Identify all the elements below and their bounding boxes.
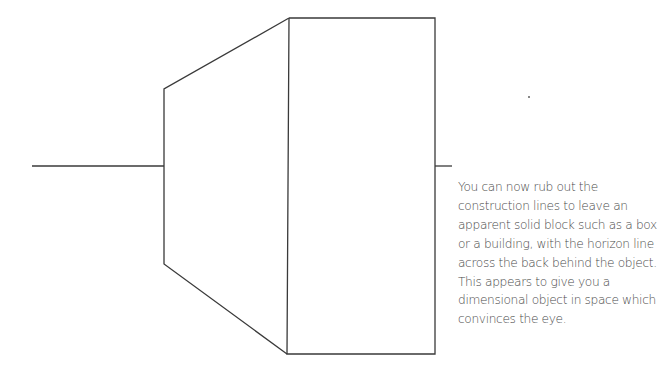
caption-line: across the back behind the object. — [458, 254, 658, 273]
caption-line: convinces the eye. — [458, 310, 658, 329]
front-face-outline — [287, 18, 435, 354]
scan-speck — [528, 96, 530, 98]
caption-line: You can now rub out the — [458, 178, 658, 197]
caption-line: dimensional object in space which — [458, 291, 658, 310]
caption-text: You can now rub out the construction lin… — [458, 178, 658, 329]
side-face-outline — [164, 18, 289, 354]
caption-line: This appears to give you a — [458, 273, 658, 292]
caption-line: apparent solid block such as a box — [458, 216, 658, 235]
caption-line: construction lines to leave an — [458, 197, 658, 216]
caption-line: or a building, with the horizon line — [458, 235, 658, 254]
